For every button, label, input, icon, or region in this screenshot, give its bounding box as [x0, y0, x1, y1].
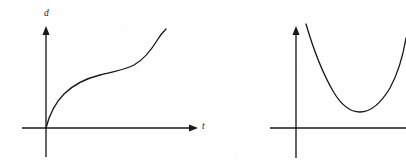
distance-chart-svg	[0, 0, 210, 164]
derivative-chart-svg	[210, 0, 406, 164]
y-axis-arrowhead-icon	[292, 26, 299, 35]
chart-panel-derivative: d′ = W(t)	[210, 0, 406, 164]
derivative-curve	[306, 24, 406, 112]
x-axis-group	[22, 124, 198, 131]
y-axis-group	[42, 26, 49, 157]
y-axis-arrowhead-icon	[42, 26, 49, 35]
y-axis-group	[292, 26, 299, 158]
x-axis-arrowhead-icon	[189, 124, 198, 131]
chart-panel-distance: d t	[0, 0, 210, 164]
distance-curve	[46, 29, 166, 128]
figure-root: d t d′ = W(t)	[0, 0, 406, 164]
x-axis-label-time: t	[202, 122, 205, 132]
y-axis-label-distance: d	[44, 9, 49, 19]
